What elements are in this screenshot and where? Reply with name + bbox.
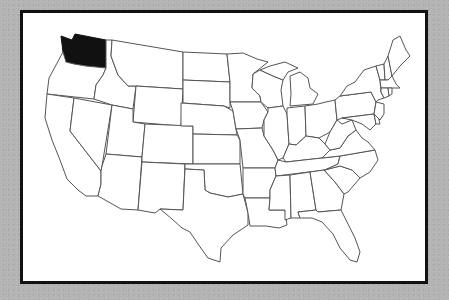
state-north-dakota xyxy=(183,52,230,82)
state-colorado xyxy=(142,124,193,164)
state-maine xyxy=(388,36,410,76)
state-rhode-island xyxy=(388,88,392,96)
state-new-mexico xyxy=(138,162,185,213)
us-map xyxy=(0,0,449,300)
state-wyoming xyxy=(133,86,183,126)
state-kansas xyxy=(193,134,240,164)
state-iowa xyxy=(230,102,268,129)
state-florida xyxy=(298,210,360,262)
state-arizona xyxy=(98,154,142,210)
